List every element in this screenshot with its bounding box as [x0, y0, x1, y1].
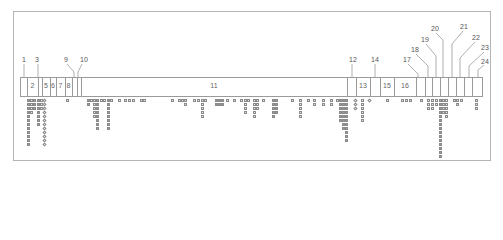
feature-mark — [427, 99, 430, 102]
feature-mark — [361, 103, 364, 106]
feature-mark — [475, 99, 478, 102]
feature-mark — [107, 115, 110, 118]
feature-mark — [221, 103, 224, 106]
feature-mark — [256, 103, 259, 106]
feature-mark — [313, 99, 316, 102]
feature-mark — [439, 147, 442, 150]
feature-mark — [456, 103, 459, 106]
feature-mark — [107, 119, 110, 122]
feature-mark — [427, 107, 430, 110]
feature-mark — [201, 107, 204, 110]
feature-mark — [33, 107, 36, 110]
feature-mark — [37, 119, 40, 122]
feature-mark — [275, 99, 278, 102]
feature-mark — [405, 99, 408, 102]
feature-mark — [96, 107, 99, 110]
feature-mark — [361, 107, 364, 110]
feature-mark — [244, 111, 247, 114]
feature-mark — [204, 99, 207, 102]
feature-mark — [233, 99, 236, 102]
feature-mark — [345, 127, 348, 130]
feature-mark — [431, 107, 434, 110]
feature-mark — [96, 103, 99, 106]
feature-mark — [27, 123, 30, 126]
feature-mark — [110, 99, 113, 102]
feature-mark — [330, 103, 333, 106]
feature-mark — [439, 131, 442, 134]
feature-mark — [256, 107, 259, 110]
feature-mark — [107, 107, 110, 110]
feature-mark — [66, 99, 69, 102]
feature-mark — [361, 99, 364, 102]
feature-mark — [345, 135, 348, 138]
feature-mark — [291, 99, 294, 102]
feature-mark — [445, 111, 448, 114]
feature-mark — [345, 115, 348, 118]
feature-mark — [171, 99, 174, 102]
feature-mark — [445, 107, 448, 110]
feature-mark — [435, 99, 438, 102]
feature-mark — [299, 115, 302, 118]
feature-mark — [132, 99, 135, 102]
feature-mark — [439, 119, 442, 122]
feature-mark — [445, 103, 448, 106]
feature-mark — [107, 123, 110, 126]
feature-mark — [445, 115, 448, 118]
feature-mark — [96, 119, 99, 122]
feature-mark — [37, 111, 40, 114]
feature-mark — [299, 107, 302, 110]
feature-mark — [253, 111, 256, 114]
feature-mark — [96, 111, 99, 114]
feature-mark — [431, 103, 434, 106]
feature-mark — [37, 123, 40, 126]
feature-mark — [439, 135, 442, 138]
feature-mark — [27, 115, 30, 118]
feature-mark — [193, 99, 196, 102]
feature-mark — [439, 151, 442, 154]
feature-mark — [27, 119, 30, 122]
feature-mark — [475, 107, 478, 110]
feature-mark — [313, 103, 316, 106]
feature-mark — [27, 143, 30, 146]
feature-mark — [103, 99, 106, 102]
feature-mark — [27, 139, 30, 142]
feature-mark — [96, 123, 99, 126]
feature-mark — [128, 99, 131, 102]
feature-mark — [386, 99, 389, 102]
feature-mark — [345, 119, 348, 122]
feature-mark — [244, 107, 247, 110]
feature-mark — [460, 99, 463, 102]
feature-mark — [299, 99, 302, 102]
feature-mark — [27, 127, 30, 130]
feature-mark — [256, 99, 259, 102]
feature-mark — [439, 155, 442, 158]
feature-mark — [33, 99, 36, 102]
feature-mark — [253, 115, 256, 118]
feature-mark — [184, 99, 187, 102]
feature-mark — [361, 115, 364, 118]
feature-mark — [345, 99, 348, 102]
feature-mark — [431, 99, 434, 102]
feature-mark — [240, 99, 243, 102]
feature-mark — [33, 103, 36, 106]
feature-mark — [201, 111, 204, 114]
feature-mark — [27, 131, 30, 134]
feature-mark — [221, 99, 224, 102]
feature-mark — [87, 103, 90, 106]
feature-mark — [439, 143, 442, 146]
feature-mark — [96, 115, 99, 118]
feature-mark — [226, 99, 229, 102]
feature-mark — [361, 111, 364, 114]
feature-mark — [107, 111, 110, 114]
feature-mark — [124, 99, 127, 102]
feature-mark — [247, 99, 250, 102]
feature-mark — [401, 99, 404, 102]
feature-mark — [299, 111, 302, 114]
feature-mark — [299, 103, 302, 106]
feature-mark — [345, 123, 348, 126]
feature-mark — [345, 139, 348, 142]
feature-mark — [96, 127, 99, 130]
feature-mark — [445, 99, 448, 102]
feature-mark — [439, 139, 442, 142]
feature-mark — [345, 103, 348, 106]
